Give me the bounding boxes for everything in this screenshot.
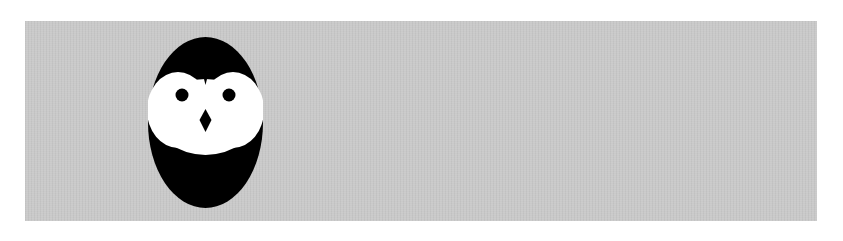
gray-banner-panel: [25, 21, 817, 221]
owl-left-eye: [176, 89, 189, 102]
owl-right-eye: [223, 89, 236, 102]
owl-icon: [148, 37, 263, 208]
